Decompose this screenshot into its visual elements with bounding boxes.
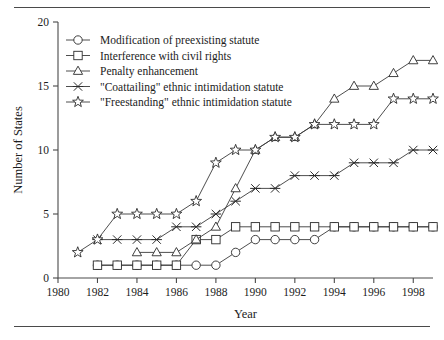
marker-x [270, 184, 281, 192]
marker-star [428, 93, 439, 103]
marker-star [408, 93, 419, 103]
marker-star [211, 157, 222, 167]
marker-square [310, 223, 318, 231]
marker-x [132, 235, 143, 243]
marker-x [171, 223, 182, 231]
marker-triangle [369, 81, 378, 89]
marker-x [230, 197, 241, 205]
marker-star [132, 208, 143, 218]
legend-label: "Freestanding" ethnic intimidation statu… [100, 96, 292, 109]
marker-star [388, 93, 399, 103]
figure-container: 05101520 1980198219841986198819901992199… [0, 0, 444, 340]
marker-x [211, 210, 222, 218]
y-tick-label: 10 [38, 144, 50, 156]
marker-triangle [152, 248, 161, 256]
marker-x [428, 146, 439, 154]
marker-circle [291, 235, 299, 243]
x-tick-label: 1980 [47, 286, 70, 298]
marker-x [250, 184, 260, 192]
legend-item[interactable]: "Coattailing" ethnic intimidation statut… [66, 81, 283, 94]
marker-square [152, 261, 160, 269]
marker-circle [271, 235, 279, 243]
marker-star [230, 144, 241, 154]
marker-triangle [73, 66, 82, 74]
x-tick-label: 1990 [244, 286, 267, 298]
marker-square [429, 223, 437, 231]
data-series [72, 93, 438, 257]
marker-square [133, 261, 141, 269]
x-tick-label: 1992 [283, 286, 306, 298]
marker-star [72, 247, 83, 257]
marker-square [93, 261, 101, 269]
y-tick-labels: 05101520 [38, 16, 50, 284]
marker-triangle [330, 94, 339, 102]
marker-square [74, 51, 82, 59]
y-axis-title: Number of States [11, 106, 25, 194]
legend-item[interactable]: "Freestanding" ethnic intimidation statu… [66, 96, 292, 109]
legend-item[interactable]: Modification of preexisting statute [66, 34, 259, 47]
legend-label: Interference with civil rights [100, 50, 232, 63]
marker-triangle [132, 248, 141, 256]
marker-triangle [409, 56, 418, 64]
data-series [93, 223, 437, 270]
x-tick-label: 1986 [165, 286, 188, 298]
x-axis-title: Year [234, 307, 258, 321]
marker-star [368, 119, 379, 129]
x-tick-label: 1988 [204, 286, 227, 298]
marker-circle [231, 248, 239, 256]
marker-square [251, 223, 259, 231]
marker-x [388, 159, 399, 167]
legend-item[interactable]: Penalty enhancement [66, 65, 199, 78]
x-tick-label: 1982 [86, 286, 109, 298]
marker-x [290, 171, 301, 179]
x-tick-label: 1996 [362, 286, 385, 298]
legend-label: Penalty enhancement [100, 65, 199, 78]
marker-circle [74, 36, 82, 44]
marker-x [329, 171, 340, 179]
marker-circle [212, 261, 220, 269]
marker-x [349, 159, 360, 167]
marker-square [389, 223, 397, 231]
marker-square [231, 223, 239, 231]
data-series [93, 223, 437, 270]
marker-star [329, 119, 340, 129]
marker-square [350, 223, 358, 231]
marker-square [291, 223, 299, 231]
marker-square [409, 223, 417, 231]
marker-triangle [231, 184, 240, 192]
marker-square [330, 223, 338, 231]
marker-x [408, 146, 419, 154]
marker-triangle [172, 248, 181, 256]
legend-label: "Coattailing" ethnic intimidation statut… [100, 81, 283, 94]
marker-star [349, 119, 360, 129]
marker-x [151, 235, 162, 243]
x-tick-labels: 1980198219841986198819901992199419961998 [47, 286, 426, 298]
x-tick-label: 1984 [125, 286, 148, 298]
marker-x [191, 223, 202, 231]
marker-star [191, 196, 202, 206]
marker-triangle [389, 68, 398, 76]
legend-label: Modification of preexisting statute [100, 34, 259, 47]
marker-square [172, 261, 180, 269]
chart-legend: Modification of preexisting statuteInter… [66, 34, 292, 109]
line-chart: 05101520 1980198219841986198819901992199… [0, 0, 444, 340]
marker-circle [251, 235, 259, 243]
x-tick-label: 1998 [402, 286, 425, 298]
legend-item[interactable]: Interference with civil rights [66, 50, 232, 63]
marker-circle [310, 235, 318, 243]
marker-star [73, 96, 84, 106]
marker-star [151, 208, 162, 218]
marker-square [113, 261, 121, 269]
marker-x [369, 159, 380, 167]
marker-x [309, 171, 320, 179]
marker-triangle [349, 81, 358, 89]
marker-x [73, 82, 84, 90]
marker-square [370, 223, 378, 231]
marker-square [212, 235, 220, 243]
marker-x [112, 235, 123, 243]
y-tick-label: 20 [38, 16, 50, 28]
y-tick-label: 15 [38, 80, 50, 92]
marker-circle [192, 261, 200, 269]
data-series [92, 146, 438, 244]
marker-square [271, 223, 279, 231]
